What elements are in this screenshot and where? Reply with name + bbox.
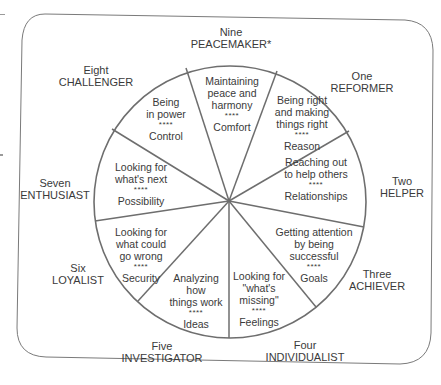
segment-line: Analyzing [169, 272, 222, 284]
segment-focus: Ideas [169, 318, 222, 330]
segment-focus: Feelings [233, 316, 285, 328]
type-label-four: Four INDIVIDUALIST [266, 339, 345, 363]
type-name: PEACEMAKER* [191, 38, 272, 50]
type-number: Nine [191, 26, 272, 38]
segment-focus: Control [146, 130, 186, 142]
segment-line: Being right [275, 94, 329, 106]
type-label-nine: Nine PEACEMAKER* [191, 26, 272, 50]
separator: **** [115, 262, 167, 272]
separator: **** [275, 262, 352, 272]
segment-line: in power [146, 108, 186, 120]
segment-line: Reaching out [284, 156, 348, 168]
segment-two: Reaching out to help others **** Relatio… [284, 156, 348, 202]
segment-line: missing" [233, 294, 285, 306]
segment-focus: Goals [275, 272, 352, 284]
type-label-two: Two HELPER [380, 175, 424, 199]
separator: **** [233, 306, 285, 316]
type-name: ENTHUSIAST [20, 189, 90, 201]
segment-seven: Looking for what's next **** Possibility [115, 161, 167, 207]
type-number: Four [266, 339, 345, 351]
segment-line: Looking for [115, 226, 167, 238]
type-name: HELPER [380, 187, 424, 199]
separator: **** [205, 111, 259, 121]
type-name: CHALLENGER [59, 76, 134, 88]
type-number: Six [52, 262, 104, 274]
segment-focus: Possibility [115, 195, 167, 207]
segment-line: how [169, 284, 222, 296]
segment-five: Analyzing how things work **** Ideas [169, 272, 222, 330]
segment-focus: Relationships [284, 190, 348, 202]
segment-line: Looking for [115, 161, 167, 173]
segment-line: go wrong [115, 250, 167, 262]
segment-line: Being [146, 96, 186, 108]
separator: **** [284, 180, 348, 190]
type-label-seven: Seven ENTHUSIAST [20, 177, 90, 201]
segment-line: by being [275, 238, 352, 250]
type-number: Eight [59, 64, 134, 76]
segment-line: what could [115, 238, 167, 250]
separator: **** [169, 308, 222, 318]
segment-line: things work [169, 296, 222, 308]
type-label-eight: Eight CHALLENGER [59, 64, 134, 88]
segment-focus: Reason [275, 140, 329, 152]
type-name: INDIVIDUALIST [266, 351, 345, 363]
type-name: ACHIEVER [349, 280, 405, 292]
segment-three: Getting attention by being successful **… [275, 226, 352, 284]
type-number: Seven [20, 177, 90, 189]
segment-line: what's next [115, 173, 167, 185]
segment-line: "what's [233, 282, 285, 294]
edge-mark [0, 14, 5, 15]
edge-mark [0, 154, 3, 156]
segment-line: Getting attention [275, 226, 352, 238]
segment-eight: Being in power **** Control [146, 96, 186, 142]
segment-focus: Security [115, 272, 167, 284]
type-label-five: Five INVESTIGATOR [122, 340, 203, 364]
type-number: One [331, 70, 394, 82]
segment-line: Looking for [233, 270, 285, 282]
type-label-one: One REFORMER [331, 70, 394, 94]
segment-six: Looking for what could go wrong **** Sec… [115, 226, 167, 284]
segment-one: Being right and making things right ****… [275, 94, 329, 152]
type-name: LOYALIST [52, 274, 104, 286]
segment-line: to help others [284, 168, 348, 180]
segment-focus: Comfort [205, 121, 259, 133]
type-number: Three [349, 268, 405, 280]
segment-line: things right [275, 118, 329, 130]
separator: **** [275, 130, 329, 140]
type-name: INVESTIGATOR [122, 352, 203, 364]
type-number: Two [380, 175, 424, 187]
segment-nine: Maintaining peace and harmony **** Comfo… [205, 75, 259, 133]
type-label-six: Six LOYALIST [52, 262, 104, 286]
segment-line: peace and [205, 87, 259, 99]
segment-line: successful [275, 250, 352, 262]
type-name: REFORMER [331, 82, 394, 94]
segment-line: and making [275, 106, 329, 118]
segment-line: Maintaining [205, 75, 259, 87]
separator: **** [115, 185, 167, 195]
segment-line: harmony [205, 99, 259, 111]
separator: **** [146, 120, 186, 130]
type-number: Five [122, 340, 203, 352]
type-label-three: Three ACHIEVER [349, 268, 405, 292]
segment-four: Looking for "what's missing" **** Feelin… [233, 270, 285, 328]
